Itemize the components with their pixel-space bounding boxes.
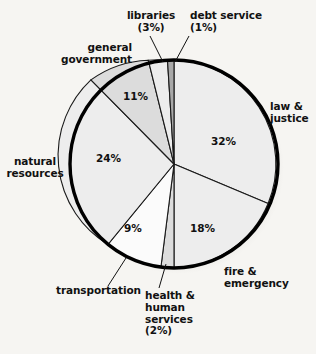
slice-label-debt-service: debt service (1%) — [190, 10, 268, 34]
slice-label-fire-emergency: fire & emergency — [224, 266, 304, 290]
slice-label-law-justice: law & justice — [270, 101, 316, 125]
leader-line-debt-service — [175, 36, 189, 62]
slice-label-general-government: general government — [46, 42, 132, 66]
slice-value-general-government: 11% — [123, 90, 148, 102]
slice-label-natural-resources: natural resources — [4, 156, 66, 180]
slice-label-health-human-services: health & human services (2%) — [145, 290, 217, 337]
slice-value-natural-resources: 24% — [96, 152, 121, 164]
slice-label-libraries: libraries (3%) — [118, 10, 184, 34]
pie-chart-figure: libraries (3%) debt service (1%) general… — [0, 0, 316, 354]
slice-value-transportation: 9% — [124, 222, 142, 234]
slice-value-law-justice: 32% — [211, 135, 236, 147]
pie-slices — [58, 60, 276, 268]
slice-label-transportation: transportation — [56, 285, 144, 297]
slice-value-fire-emergency: 18% — [190, 222, 215, 234]
leader-line-transportation — [108, 258, 126, 286]
leader-line-libraries — [150, 36, 163, 62]
